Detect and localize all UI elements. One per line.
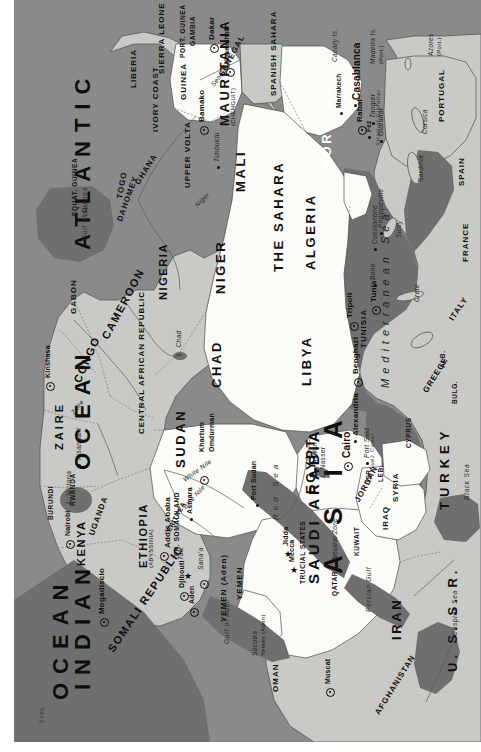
city-label-muscat: Muscat — [324, 659, 331, 684]
country-label-equat-guinea: EQUAT. GUINEA — [72, 158, 79, 216]
sea-label-red-sea: Red Sea — [272, 461, 280, 520]
country-label-sudan: SUDAN — [174, 409, 187, 468]
country-label-burundi: BURUNDI — [48, 486, 55, 520]
country-label-kuwait: KUWAIT — [354, 527, 361, 556]
country-label-oman: OMAN — [272, 664, 280, 692]
country-label-tunisia: TUNISIA — [360, 309, 368, 348]
island-label-madeira: Madeira Is. — [370, 27, 377, 64]
capital-dot-tunis — [372, 306, 381, 315]
city-dot-gibraltar — [380, 140, 383, 143]
city-dot-fez — [368, 136, 371, 139]
country-label-cyprus: CYPRUS — [406, 417, 413, 448]
city-label-aden: Aden — [188, 586, 195, 604]
capital-dot-mogadiscio — [100, 618, 109, 627]
country-label-iran: IRAN — [390, 598, 403, 640]
city-dot-marrakech — [340, 112, 343, 115]
capital-dot-nairobi — [66, 540, 75, 549]
island-sublabel-socotra: Yemen (Aden) — [260, 614, 266, 656]
country-label-ivory-coast: IVORY COAST — [152, 66, 160, 132]
city-label-port-said: Port Said — [364, 428, 371, 458]
city-label-tripoli: Tripoli — [346, 293, 354, 318]
country-label-israel: ISR. — [366, 467, 373, 482]
capital-dot-kinshasa — [46, 382, 55, 391]
city-label-benghazi: Benghazi — [352, 337, 360, 374]
city-dot-port-said — [366, 462, 369, 465]
city-label-mecca: Mecca — [288, 540, 295, 562]
country-label-turkey: TURKEY — [438, 427, 451, 510]
island-label-crete: Crete — [414, 284, 421, 302]
country-label-niger: NIGER — [214, 240, 227, 294]
city-label-kisangani: Kisangani — [76, 428, 83, 460]
city-label-kinshasa: Kinshasa — [44, 345, 51, 378]
country-sublabel-ethiopia: (ABYSSINIA) — [148, 529, 154, 568]
country-label-guinea: GUINEA — [180, 63, 188, 100]
capital-dot-sanaa — [200, 580, 209, 589]
capital-dot-dakar — [210, 44, 219, 53]
country-label-car: CENTRAL AFRICAN REPUBLIC — [138, 291, 146, 434]
country-label-qatar: QATAR — [332, 571, 339, 596]
country-label-libya: LIBYA — [300, 335, 313, 386]
island-label-sardinia: Sardinia — [418, 155, 425, 182]
city-label-rabat: Rabat — [356, 99, 364, 122]
country-label-ussr: U. S. S. R. — [446, 567, 459, 672]
island-label-canary: Canary Is. — [332, 28, 339, 62]
city-dot-asmara — [190, 518, 193, 521]
country-label-gabon: GABON — [70, 279, 78, 314]
city-label-nairobi: Nairobi — [64, 510, 71, 536]
lake-label-chad: L. Chad — [176, 330, 183, 356]
country-label-morocco: MOROCCO — [320, 82, 333, 170]
country-label-france: FRANCE — [462, 223, 470, 262]
country-label-mali: MALI — [234, 150, 247, 192]
city-dot-philippeville — [380, 232, 383, 235]
country-label-iraq: IRAQ — [382, 506, 390, 530]
island-label-socotra: Socotra — [252, 631, 259, 656]
city-label-alexandria: Alexandria — [352, 393, 360, 436]
country-label-port-guinea: PORT. GUINEA — [180, 5, 187, 58]
country-label-nigeria: NIGERIA — [158, 243, 169, 300]
city-dot-port-sudan — [256, 504, 259, 507]
copyright-notice: © FPG — [40, 707, 45, 723]
lake-label-victoria: L. Victoria — [66, 471, 73, 504]
sea-label-persian-gulf: Persian Gulf — [366, 567, 373, 612]
country-label-syria: SYRIA — [392, 473, 400, 502]
city-label-mogadiscio: Mogadiscio — [98, 568, 106, 614]
city-label-addis-ababa: Addis Ababa — [164, 497, 172, 548]
country-label-chad: CHAD — [210, 340, 223, 388]
country-label-upper-volta: UPPER VOLTA — [184, 121, 192, 188]
country-label-spanish: SPANISH SAHARA — [270, 11, 278, 96]
capital-dot-bamako — [200, 126, 209, 135]
city-dot-timbuktu — [217, 166, 220, 169]
country-label-the-sahara: THE SAHARA — [272, 161, 285, 272]
city-label-timbuktu: Timbuktu — [214, 132, 221, 162]
capital-dot-muscat — [326, 688, 335, 697]
city-label-tangier: Tangier — [370, 94, 377, 118]
city-label-tunis: Tunis — [370, 280, 378, 302]
city-label-marrakech: Marrakech — [336, 74, 343, 108]
city-label-port-sudan: Port Sudan — [250, 461, 257, 500]
city-label-sanaa: Sana'a — [198, 548, 205, 570]
country-label-sierra-leone: SIERRA LEONE — [158, 2, 166, 74]
country-label-liberia: LIBERIA — [130, 49, 138, 88]
ocean-label-indian-2: OCEAN — [50, 576, 72, 700]
city-label-bamako: Bamako — [198, 90, 206, 122]
city-dot-constantine — [374, 248, 377, 251]
lake-label-nasser: L. Nasser — [320, 447, 327, 478]
map-page: .land{fill:#c9c9c6;stroke:#4e4e4e;stroke… — [0, 0, 481, 752]
island-sublabel-azores: (Port.) — [436, 37, 442, 56]
country-label-zaire: ZAIRE — [54, 402, 65, 450]
city-label-gibraltar: Gibraltar — [378, 107, 385, 136]
city-label-dakar: Dakar — [208, 17, 216, 40]
city-label-khartum: Khartum — [198, 422, 205, 452]
country-label-kenya: KENYA — [76, 521, 87, 567]
country-label-trucial-states: TRUCIAL STATES — [300, 521, 307, 584]
city-label-bone: Bone — [370, 263, 377, 280]
country-label-yemen-aden: YEMEN (Aden) — [220, 554, 228, 622]
capital-dot-cairo — [344, 462, 353, 471]
country-sublabel-mauritania: (CHENGUIT) — [230, 88, 236, 126]
island-label-sicily: Sicily — [396, 220, 403, 238]
star-marker-mecca: ★ — [290, 566, 298, 575]
island-label-corsica: Corsica — [422, 109, 429, 134]
capital-dot-aden — [190, 608, 199, 617]
sea-label-black-sea: Black Sea — [464, 464, 471, 500]
country-label-albania: ALB. — [440, 350, 447, 368]
